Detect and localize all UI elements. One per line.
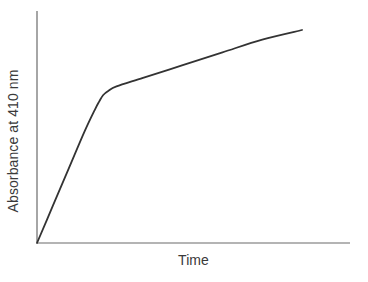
x-axis-label: Time bbox=[37, 252, 350, 268]
data-series-line bbox=[37, 30, 302, 243]
plot-area bbox=[0, 0, 368, 282]
y-axis-label: Absorbance at 410 nm bbox=[0, 0, 26, 282]
chart-figure: Absorbance at 410 nm Time bbox=[0, 0, 368, 282]
